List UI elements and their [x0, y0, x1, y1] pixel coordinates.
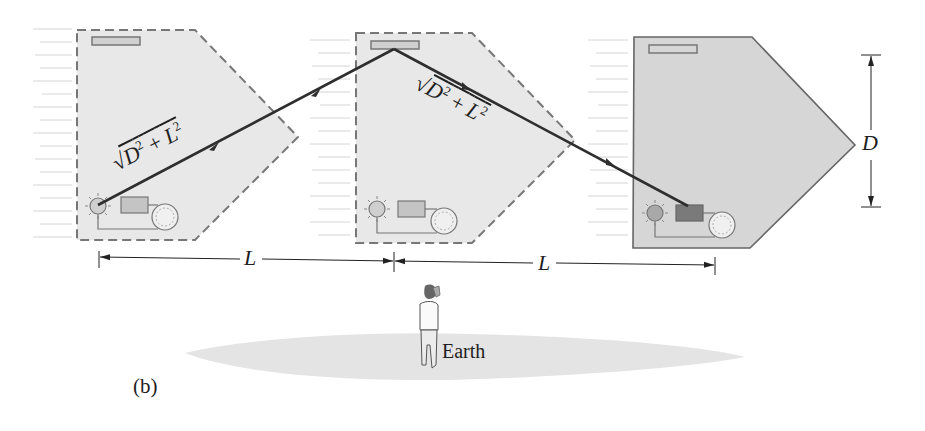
light-clock-diagram: √D2 + L2 √D2 + L2 D L L Earth (b)	[0, 0, 925, 431]
satellite-position-3	[633, 37, 855, 248]
mirror-1	[92, 37, 140, 45]
l-label-1: L	[244, 245, 256, 271]
clock-icon-1	[152, 204, 178, 230]
satellite-position-1	[77, 30, 298, 240]
clock-icon-2	[431, 208, 457, 234]
mirror-2	[371, 41, 419, 49]
l-label-2: L	[538, 250, 550, 276]
l-dimensions	[99, 251, 715, 275]
detector-1	[121, 197, 148, 213]
clock-icon-3	[709, 212, 735, 238]
diagram-canvas	[0, 0, 925, 431]
satellite-position-2	[356, 33, 575, 243]
detector-2	[398, 201, 425, 217]
speed-lines-3	[588, 40, 628, 235]
speed-lines-2	[310, 40, 350, 235]
earth-label: Earth	[442, 340, 485, 363]
d-label: D	[862, 130, 878, 156]
panel-label: (b)	[133, 374, 158, 399]
detector-3-lit	[676, 205, 703, 221]
mirror-3	[649, 45, 697, 53]
speed-lines-1	[33, 29, 72, 237]
